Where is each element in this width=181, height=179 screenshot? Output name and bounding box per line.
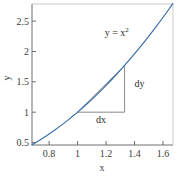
- x-tick-label-0: 0.8: [43, 148, 56, 159]
- x-tick-label-4: 1.6: [157, 148, 170, 159]
- curve-label-exponent: 2: [125, 26, 129, 34]
- x-tick-labels: 0.8 1 1.2 1.4 1.6: [43, 148, 169, 159]
- x-tick-label-3: 1.4: [128, 148, 141, 159]
- plot-canvas: 0.8 1 1.2 1.4 1.6 0.5 1 1.5 2 2.5 x y: [0, 0, 181, 179]
- dx-label: dx: [96, 114, 106, 125]
- y-tick-label-4: 2.5: [17, 16, 30, 27]
- y-tick-labels: 0.5 1 1.5 2 2.5: [17, 16, 30, 149]
- y-tick-label-2: 1.5: [17, 76, 30, 87]
- y-tick-label-0: 0.5: [17, 137, 30, 148]
- x-axis-title: x: [100, 162, 105, 173]
- dy-label: dy: [135, 78, 145, 89]
- y-tick-label-3: 2: [24, 46, 29, 57]
- y-axis-title: y: [1, 76, 12, 81]
- figure-container: 0.8 1 1.2 1.4 1.6 0.5 1 1.5 2 2.5 x y: [0, 0, 181, 179]
- x-tick-label-2: 1.2: [100, 148, 113, 159]
- curve-label: y = x: [105, 27, 126, 38]
- y-tick-label-1: 1: [24, 107, 29, 118]
- x-tick-label-1: 1: [75, 148, 80, 159]
